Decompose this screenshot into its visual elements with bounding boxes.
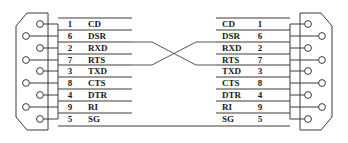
- left-row-pin-2: 2: [68, 43, 73, 53]
- left-pin-6: [23, 33, 30, 40]
- right-pin-6: [319, 33, 326, 40]
- left-pin-3: [37, 68, 44, 75]
- left-pin-1: [37, 21, 44, 28]
- left-row-signal-3: TXD: [88, 66, 108, 76]
- right-row-pin-2: 2: [258, 43, 263, 53]
- left-row-pin-4: 4: [68, 90, 73, 100]
- left-row-pin-1: 1: [68, 19, 73, 29]
- right-row-signal-6: DSR: [222, 31, 241, 41]
- left-row-pin-5: 5: [68, 114, 73, 124]
- right-pin-7: [319, 57, 326, 64]
- left-row-pin-9: 9: [68, 102, 73, 112]
- left-row-signal-8: CTS: [88, 78, 106, 88]
- left-row-signal-9: RI: [88, 102, 98, 112]
- left-row-pin-3: 3: [68, 66, 73, 76]
- right-row-signal-1: CD: [222, 19, 235, 29]
- right-pin-5: [305, 116, 312, 123]
- right-row-pin-8: 8: [258, 78, 263, 88]
- left-row-signal-4: DTR: [88, 90, 108, 100]
- right-row-signal-8: CTS: [222, 78, 240, 88]
- crossover-wire-txd-to-rxd: [132, 42, 216, 65]
- wiring-svg: 1 CD 6 DSR 2 RXD 7 RTS 3 TXD 8 CTS 4 DTR…: [0, 0, 348, 143]
- right-pin-1: [305, 21, 312, 28]
- left-row-signal-6: DSR: [88, 31, 107, 41]
- right-row-signal-2: RXD: [222, 43, 242, 53]
- right-row-signal-3: TXD: [222, 66, 242, 76]
- right-row-pin-7: 7: [258, 55, 263, 65]
- right-pin-9: [319, 104, 326, 111]
- left-row-signal-1: CD: [88, 19, 101, 29]
- right-pin-3: [305, 68, 312, 75]
- rs232-wiring-diagram: 1 CD 6 DSR 2 RXD 7 RTS 3 TXD 8 CTS 4 DTR…: [0, 0, 348, 143]
- left-row-pin-6: 6: [68, 31, 73, 41]
- right-row-pin-3: 3: [258, 66, 263, 76]
- left-pin-4: [37, 92, 44, 99]
- left-pin-5: [37, 116, 44, 123]
- left-row-signal-7: RTS: [88, 55, 105, 65]
- left-row-pin-8: 8: [68, 78, 73, 88]
- left-pin-2: [37, 45, 44, 52]
- right-row-signal-5: SG: [222, 114, 234, 124]
- left-row-signal-2: RXD: [88, 43, 108, 53]
- right-row-signal-4: DTR: [222, 90, 242, 100]
- right-pin-4: [305, 92, 312, 99]
- right-row-pin-1: 1: [258, 19, 263, 29]
- left-row-pin-7: 7: [68, 55, 73, 65]
- right-row-pin-6: 6: [258, 31, 263, 41]
- right-pin-2: [305, 45, 312, 52]
- left-pin-8: [23, 80, 30, 87]
- right-row-signal-9: RI: [222, 102, 232, 112]
- left-pin-9: [23, 104, 30, 111]
- left-pin-7: [23, 57, 30, 64]
- right-row-pin-9: 9: [258, 102, 263, 112]
- right-row-pin-5: 5: [258, 114, 263, 124]
- right-row-pin-4: 4: [258, 90, 263, 100]
- right-pin-8: [319, 80, 326, 87]
- right-row-signal-7: RTS: [222, 55, 239, 65]
- left-row-signal-5: SG: [88, 114, 100, 124]
